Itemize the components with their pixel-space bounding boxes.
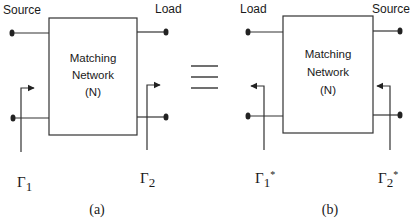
reflection-arrow-left-icon	[251, 86, 264, 150]
terminal-dot-icon	[246, 113, 251, 120]
equivalence-icon	[191, 66, 218, 88]
terminal-dot-icon	[398, 28, 403, 35]
terminal-dot-icon	[10, 30, 15, 37]
box-text-line3-a: (N)	[85, 86, 101, 98]
load-label-a: Load	[155, 2, 182, 16]
box-text-line1-a: Matching	[70, 52, 117, 64]
caption-b: (b)	[322, 202, 339, 218]
terminal-dot-icon	[246, 29, 251, 36]
matching-network-diagram: Source Load Matching Network (N) Γ1 Γ2 (…	[0, 0, 419, 221]
box-text-line2-a: Network	[72, 69, 114, 81]
load-label-b: Load	[240, 2, 267, 16]
reflection-arrow-right-icon	[21, 88, 34, 152]
source-label-b: Source	[372, 2, 410, 16]
panel-a: Source Load Matching Network (N) Γ1 Γ2 (…	[3, 2, 182, 218]
box-text-line2-b: Network	[307, 66, 349, 78]
terminal-dot-icon	[164, 29, 169, 36]
terminal-dot-icon	[164, 114, 169, 121]
source-label-a: Source	[3, 3, 41, 17]
gamma-2-conj-label-b: Γ2*	[378, 169, 398, 190]
reflection-arrow-left-icon	[377, 86, 390, 150]
gamma-1-conj-label-b: Γ1*	[255, 169, 275, 190]
terminal-dot-icon	[398, 112, 403, 119]
panel-b: Load Source Matching Network (N) Γ1* Γ2*…	[240, 2, 410, 218]
gamma-2-label-a: Γ2	[140, 170, 155, 190]
box-text-line3-b: (N)	[320, 84, 336, 96]
box-text-line1-b: Matching	[305, 48, 352, 60]
gamma-1-label-a: Γ1	[17, 174, 32, 194]
caption-a: (a)	[89, 202, 105, 218]
terminal-dot-icon	[11, 115, 16, 122]
